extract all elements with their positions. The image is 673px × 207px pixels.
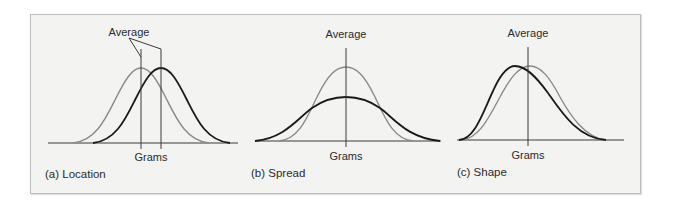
grams-label: Grams [330,150,364,162]
average-leader-left [129,38,141,57]
distribution-diagram: Average Grams (a) Location Average Grams… [0,0,673,207]
panel-caption: (a) Location [45,168,106,180]
average-label: Average [508,27,549,39]
grams-label: Grams [512,149,546,161]
panel-caption: (b) Spread [251,167,305,179]
average-leader-right [129,38,161,49]
panel-shape: Average Grams (c) Shape [457,27,624,178]
average-label: Average [326,28,367,40]
panel-caption: (c) Shape [457,166,507,178]
panel-location: Average Grams (a) Location [45,26,238,180]
wide-curve [255,97,440,141]
panel-spread: Average Grams (b) Spread [251,28,441,179]
average-label: Average [109,26,150,38]
grams-label: Grams [135,151,169,163]
